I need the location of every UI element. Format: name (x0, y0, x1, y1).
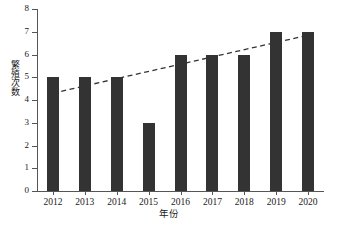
y-tick-label: 4 (25, 94, 30, 105)
y-tick-label: 2 (25, 140, 30, 151)
y-tick-label: 3 (25, 117, 30, 128)
y-tick-label: 5 (25, 71, 30, 82)
y-tick: 0 (32, 191, 37, 192)
bars-layer (37, 9, 324, 191)
y-axis-title: 繁殖次数 (4, 60, 20, 96)
y-tick-label: 1 (25, 162, 30, 173)
bar (111, 77, 123, 191)
bar (270, 32, 282, 191)
x-tick (53, 192, 54, 195)
x-tick (149, 192, 150, 195)
x-tick (212, 192, 213, 195)
bar (47, 77, 59, 191)
bar-chart: 繁殖次数 012345678 2012201320142015201620172… (0, 0, 338, 227)
x-tick (308, 192, 309, 195)
bar (143, 123, 155, 191)
y-tick-label: 6 (25, 49, 30, 60)
x-tick (276, 192, 277, 195)
x-tick (117, 192, 118, 195)
bar (238, 55, 250, 192)
x-tick (181, 192, 182, 195)
y-tick-label: 0 (25, 185, 30, 196)
bar (79, 77, 91, 191)
x-tick (85, 192, 86, 195)
bar (302, 32, 314, 191)
y-tick-label: 7 (25, 26, 30, 37)
bar (206, 55, 218, 192)
y-tick-label: 8 (25, 3, 30, 14)
x-axis-title: 年份 (0, 206, 338, 220)
bar (175, 55, 187, 192)
x-tick (244, 192, 245, 195)
